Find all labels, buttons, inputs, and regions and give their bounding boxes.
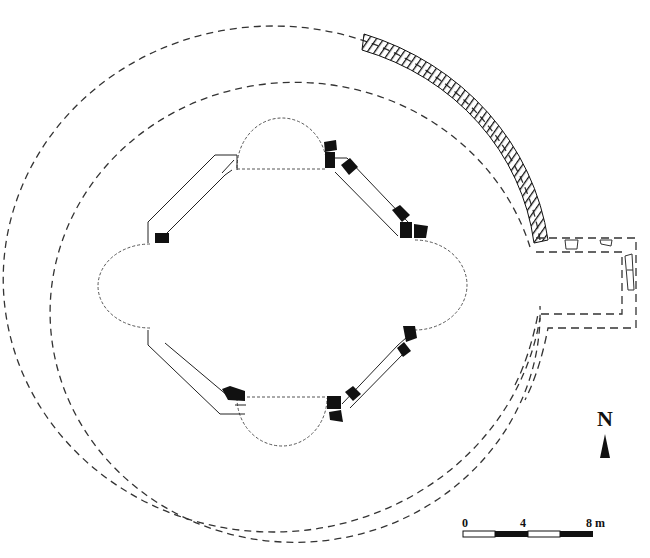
scale-label-8m: 8 m	[586, 516, 605, 531]
apses	[98, 118, 467, 446]
east-annex	[515, 238, 636, 400]
scale-label-4: 4	[520, 516, 526, 531]
scale-bar	[462, 530, 602, 540]
north-apse	[237, 118, 327, 168]
south-apse	[237, 398, 327, 446]
north-arrow-icon	[590, 430, 620, 466]
ground-plan-drawing	[0, 0, 650, 558]
east-apse	[415, 240, 467, 330]
scale-label-0: 0	[462, 516, 468, 531]
north-arrow: N	[590, 408, 620, 470]
west-apse	[98, 244, 150, 328]
diagonal-walls	[148, 155, 415, 414]
scale-bar-labels: 0 4 8 m	[462, 516, 642, 530]
annex-fragments	[565, 240, 634, 290]
north-label: N	[590, 408, 620, 430]
masonry-blocks	[155, 140, 428, 422]
plan-canvas: N 0 4 8 m	[0, 0, 650, 558]
